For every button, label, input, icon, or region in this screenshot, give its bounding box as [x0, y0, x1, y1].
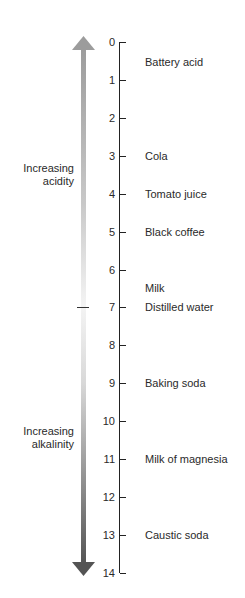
label-caustic-soda: Caustic soda	[145, 529, 209, 541]
tick-2	[120, 118, 126, 119]
tick-3	[120, 156, 126, 157]
tick-1	[120, 80, 126, 81]
tick-11	[120, 459, 126, 460]
tick-label: 9	[91, 377, 115, 389]
label-distilled-water: Distilled water	[145, 301, 213, 313]
alkalinity-line-1: Increasing	[0, 425, 74, 438]
acidity-line-1: Increasing	[0, 162, 74, 175]
tick-label: 11	[91, 453, 115, 465]
tick-label: 12	[91, 491, 115, 503]
tick-label: 5	[91, 226, 115, 238]
acidity-line-2: acidity	[0, 175, 74, 188]
tick-label: 14	[91, 567, 115, 579]
tick-6	[120, 270, 126, 271]
tick-label: 13	[91, 529, 115, 541]
tick-label: 7	[91, 301, 115, 313]
increasing-acidity-label: Increasing acidity	[0, 162, 74, 188]
tick-8	[120, 345, 126, 346]
neutral-marker	[77, 307, 89, 308]
tick-12	[120, 497, 126, 498]
tick-label: 0	[91, 36, 115, 48]
tick-9	[120, 383, 126, 384]
label-cola: Cola	[145, 150, 168, 162]
tick-label: 4	[91, 188, 115, 200]
tick-10	[120, 421, 126, 422]
tick-label: 2	[91, 112, 115, 124]
increasing-alkalinity-label: Increasing alkalinity	[0, 425, 74, 451]
tick-13	[120, 535, 126, 536]
tick-label: 6	[91, 264, 115, 276]
label-tomato-juice: Tomato juice	[145, 188, 207, 200]
tick-5	[120, 232, 126, 233]
tick-7	[120, 307, 126, 308]
label-milk: Milk	[145, 282, 165, 294]
tick-14	[120, 573, 126, 574]
label-milk-of-magnesia: Milk of magnesia	[145, 453, 228, 465]
tick-label: 10	[91, 415, 115, 427]
tick-0	[120, 42, 126, 43]
tick-label: 1	[91, 74, 115, 86]
label-battery-acid: Battery acid	[145, 56, 203, 68]
label-baking-soda: Baking soda	[145, 377, 206, 389]
alkalinity-line-2: alkalinity	[0, 438, 74, 451]
tick-label: 3	[91, 150, 115, 162]
tick-4	[120, 194, 126, 195]
tick-label: 8	[91, 339, 115, 351]
label-black-coffee: Black coffee	[145, 226, 205, 238]
